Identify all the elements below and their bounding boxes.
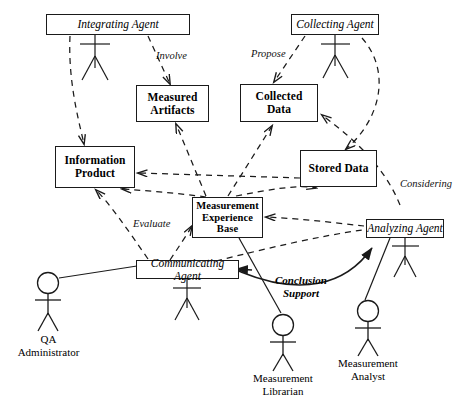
entity-label-information-product-line2: Product xyxy=(64,167,125,180)
agent-box-collecting-agent[interactable]: Collecting Agent xyxy=(291,14,379,35)
edge-label-conclusion-support-line2: Support xyxy=(275,287,327,300)
agent-label-collecting-agent: Collecting Agent xyxy=(296,18,373,31)
entity-label-measured-artifacts-line2: Artifacts xyxy=(148,104,198,117)
entity-box-collected-data[interactable]: Collected Data xyxy=(240,84,318,122)
agent-box-communicating-agent[interactable]: Communicating Agent xyxy=(136,260,239,279)
edge-label-considering: Considering xyxy=(400,178,452,189)
edge-meb-to-stored-data xyxy=(236,187,316,196)
use-case-diagram: Integrating Agent Collecting Agent Analy… xyxy=(0,0,473,402)
actor-caption-measurement-librarian: Measurement Librarian xyxy=(235,372,331,397)
edge-label-involve: Involve xyxy=(156,50,187,61)
entity-label-collected-data-line1: Collected xyxy=(256,90,303,103)
entity-box-measured-artifacts[interactable]: Measured Artifacts xyxy=(136,85,209,122)
edge-label-evaluate: Evaluate xyxy=(133,218,170,229)
actor-caption-qa-administrator-line1: QA xyxy=(0,333,97,346)
measurement-librarian-figure xyxy=(270,315,296,372)
edge-label-conclusion-support: Conclusion Support xyxy=(275,274,327,300)
communicating-agent-figure xyxy=(173,278,201,320)
edge-label-conclusion-support-line1: Conclusion xyxy=(275,274,327,287)
agent-label-analyzing-agent: Analyzing Agent xyxy=(367,222,443,235)
measurement-analyst-figure xyxy=(355,301,381,357)
qa-administrator-figure xyxy=(35,273,61,332)
actor-caption-qa-administrator: QA Administrator xyxy=(0,333,97,358)
integrating-agent-figure xyxy=(80,35,110,80)
actor-caption-measurement-librarian-line1: Measurement xyxy=(235,372,331,385)
edge-qa-to-communicating xyxy=(59,266,137,278)
edge-collecting-to-stored-data xyxy=(346,38,379,149)
entity-label-meb-line3: Base xyxy=(196,223,259,235)
agent-label-communicating-agent: Communicating Agent xyxy=(137,257,238,283)
edge-meb-to-measured-artifacts xyxy=(176,124,206,196)
analyzing-agent-figure xyxy=(392,237,419,277)
entity-label-information-product-line1: Information xyxy=(64,154,125,167)
entity-label-stored-data-line1: Stored Data xyxy=(309,162,369,175)
entity-label-collected-data-line2: Data xyxy=(256,103,303,116)
agent-box-integrating-agent[interactable]: Integrating Agent xyxy=(46,14,190,35)
agent-label-integrating-agent: Integrating Agent xyxy=(77,18,158,31)
actor-caption-measurement-analyst: Measurement Analyst xyxy=(320,357,416,382)
edge-meb-to-information-product xyxy=(122,189,206,197)
entity-label-meb-line2: Experience xyxy=(196,212,259,224)
agent-box-analyzing-agent[interactable]: Analyzing Agent xyxy=(366,219,444,238)
actor-caption-measurement-librarian-line2: Librarian xyxy=(235,385,331,398)
entity-label-meb-line1: Measurement xyxy=(196,200,259,212)
edge-label-propose: Propose xyxy=(251,48,286,59)
edge-stored-data-to-information-product xyxy=(138,173,300,178)
actor-caption-qa-administrator-line2: Administrator xyxy=(0,346,97,359)
edge-meb-to-collected-data xyxy=(228,126,272,196)
edge-analyzing-to-meb xyxy=(266,217,364,226)
entity-box-measurement-experience-base[interactable]: Measurement Experience Base xyxy=(192,197,263,238)
edge-propose-collecting-to-collected-data xyxy=(274,36,305,82)
edge-communicating-to-meb xyxy=(170,226,192,260)
entity-label-measured-artifacts-line1: Measured xyxy=(148,91,198,104)
actor-caption-measurement-analyst-line2: Analyst xyxy=(320,370,416,383)
entity-box-information-product[interactable]: Information Product xyxy=(55,146,135,188)
entity-box-stored-data[interactable]: Stored Data xyxy=(300,150,377,187)
edge-integrating-to-information-product xyxy=(70,36,84,144)
collecting-agent-figure xyxy=(321,35,350,78)
edge-analyst-to-analyzing xyxy=(365,238,390,300)
actor-caption-measurement-analyst-line1: Measurement xyxy=(320,357,416,370)
